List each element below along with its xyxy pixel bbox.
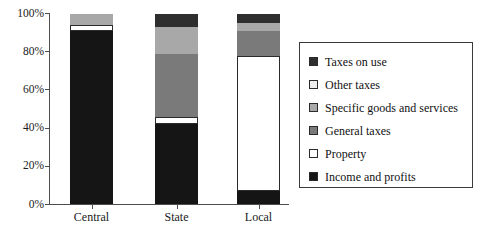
bar-segment <box>155 117 198 125</box>
legend-item-label: Property <box>325 148 366 160</box>
legend-item[interactable]: Other taxes <box>309 73 472 96</box>
bar-segment <box>237 191 280 204</box>
bar-central <box>70 14 113 205</box>
bar-segment <box>237 56 280 192</box>
legend-item-label: Other taxes <box>325 79 380 91</box>
bar-segment <box>70 31 113 205</box>
x-tick-label: Local <box>214 211 304 223</box>
legend-swatch-icon <box>309 57 318 66</box>
x-tick-label: Central <box>47 211 137 223</box>
legend-swatch-icon <box>309 149 318 158</box>
y-tick-mark <box>45 204 50 205</box>
y-tick-mark <box>45 51 50 52</box>
bar-segment <box>155 54 198 117</box>
chart-figure: 100%80%60%40%20%0% CentralStateLocal Tax… <box>0 0 479 233</box>
legend-item[interactable]: Property <box>309 142 472 165</box>
y-tick-label: 80% <box>0 46 44 58</box>
y-tick-label: 40% <box>0 122 44 134</box>
y-tick-label: 0% <box>0 199 44 211</box>
x-tick-mark <box>259 204 260 209</box>
bar-segment <box>237 14 280 24</box>
x-tick-label: State <box>132 211 222 223</box>
y-tick-label: 60% <box>0 84 44 96</box>
bar-segment <box>155 27 198 54</box>
chart-legend: Taxes on useOther taxesSpecific goods an… <box>299 42 473 188</box>
legend-swatch-icon <box>309 80 318 89</box>
legend-item-label: Specific goods and services <box>325 102 458 114</box>
legend-item[interactable]: General taxes <box>309 119 472 142</box>
y-tick-mark <box>45 13 50 14</box>
bar-segment <box>70 25 113 31</box>
y-axis-line <box>49 13 50 205</box>
legend-swatch-icon <box>309 103 318 112</box>
y-tick-mark <box>45 166 50 167</box>
x-tick-mark <box>177 204 178 209</box>
bar-state <box>155 14 198 205</box>
bar-segment <box>237 31 280 56</box>
y-tick-mark <box>45 128 50 129</box>
legend-item[interactable]: Specific goods and services <box>309 96 472 119</box>
y-tick-mark <box>45 89 50 90</box>
legend-swatch-icon <box>309 126 318 135</box>
y-tick-label: 100% <box>0 8 44 20</box>
plot-area: 100%80%60%40%20%0% CentralStateLocal <box>0 0 292 233</box>
legend-item-label: General taxes <box>325 125 391 137</box>
bar-segment <box>237 23 280 31</box>
legend-swatch-icon <box>309 172 318 181</box>
legend-item-label: Taxes on use <box>325 56 387 68</box>
y-tick-label: 20% <box>0 160 44 172</box>
legend-item-label: Income and profits <box>325 171 416 183</box>
x-tick-mark <box>92 204 93 209</box>
bar-local <box>237 14 280 205</box>
bar-segment <box>155 124 198 204</box>
bar-segment <box>70 14 113 25</box>
legend-item[interactable]: Taxes on use <box>309 50 472 73</box>
bar-segment <box>155 14 198 27</box>
legend-item[interactable]: Income and profits <box>309 165 472 188</box>
